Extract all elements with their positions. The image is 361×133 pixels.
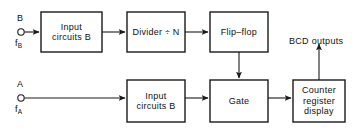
terminal-a-top-label: A (17, 79, 23, 89)
terminal-a-bottom-label: fA (15, 104, 22, 114)
block-flip-flop (210, 12, 268, 52)
terminal-a-circle (18, 95, 24, 101)
terminal-b-circle (18, 29, 24, 35)
bcd-outputs-label: BCD outputs (289, 36, 343, 46)
block-input-circuits-b-bottom (127, 80, 185, 122)
diagram-canvas (0, 0, 361, 133)
block-input-circuits-b-top (41, 12, 102, 52)
block-gate (210, 80, 268, 122)
terminal-b-freq-subscript: B (18, 42, 22, 49)
block-counter-register-display (293, 80, 345, 122)
terminal-a-freq-subscript: A (18, 108, 22, 115)
block-divider (127, 12, 185, 52)
block-diagram: Input circuits B Divider ÷ N Flip–flop I… (0, 0, 361, 133)
terminal-b-top-label: B (17, 13, 23, 23)
terminal-b-bottom-label: fB (15, 38, 22, 48)
